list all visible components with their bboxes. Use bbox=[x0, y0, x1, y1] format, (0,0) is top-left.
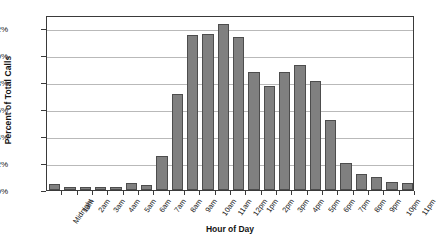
x-tick-label: 3pm bbox=[295, 197, 311, 214]
bar bbox=[126, 183, 137, 190]
x-tick-label: 9am bbox=[203, 197, 219, 214]
bar bbox=[310, 81, 321, 190]
bar bbox=[233, 37, 244, 190]
bar bbox=[386, 182, 397, 190]
x-tick-label: 8am bbox=[188, 197, 204, 214]
y-tick-mark bbox=[41, 56, 46, 57]
x-tick-mark bbox=[261, 191, 262, 195]
bar bbox=[294, 65, 305, 190]
x-tick-mark bbox=[245, 191, 246, 195]
x-tick-mark bbox=[138, 191, 139, 195]
x-tick-mark bbox=[199, 191, 200, 195]
x-tick-mark bbox=[215, 191, 216, 195]
bar bbox=[172, 94, 183, 190]
y-tick-label: 0% bbox=[0, 187, 8, 196]
x-tick-mark bbox=[307, 191, 308, 195]
bar bbox=[49, 184, 60, 190]
x-tick-label: 7am bbox=[173, 197, 189, 214]
bar bbox=[202, 34, 213, 190]
x-tick-mark bbox=[291, 191, 292, 195]
x-tick-label: 4am bbox=[127, 197, 143, 214]
x-tick-mark bbox=[230, 191, 231, 195]
x-tick-mark bbox=[383, 191, 384, 195]
x-tick-label: 9pm bbox=[387, 197, 403, 214]
bar bbox=[218, 24, 229, 190]
x-tick-mark bbox=[61, 191, 62, 195]
x-tick-label: 3am bbox=[111, 197, 127, 214]
x-tick-label: 10am bbox=[220, 197, 238, 218]
bar bbox=[156, 156, 167, 190]
x-tick-mark bbox=[184, 191, 185, 195]
x-tick-label: 1am bbox=[81, 197, 97, 214]
bar bbox=[340, 163, 351, 190]
y-tick-label: 4% bbox=[0, 133, 8, 142]
bar bbox=[264, 86, 275, 190]
x-tick-mark bbox=[92, 191, 93, 195]
bar bbox=[64, 187, 75, 190]
bars-group bbox=[47, 17, 413, 190]
bar bbox=[248, 72, 259, 190]
x-tick-mark bbox=[77, 191, 78, 195]
y-tick-label: 6% bbox=[0, 106, 8, 115]
bar bbox=[356, 174, 367, 190]
x-tick-label: 10pm bbox=[404, 197, 422, 218]
bar bbox=[371, 177, 382, 190]
x-tick-label: 5am bbox=[142, 197, 158, 214]
x-tick-label: 2pm bbox=[280, 197, 296, 214]
x-tick-mark bbox=[169, 191, 170, 195]
y-tick-mark bbox=[41, 137, 46, 138]
y-tick-mark bbox=[41, 110, 46, 111]
bar bbox=[110, 187, 121, 190]
x-tick-label: 6pm bbox=[341, 197, 357, 214]
x-tick-mark bbox=[414, 191, 415, 195]
x-tick-label: 4pm bbox=[311, 197, 327, 214]
x-tick-label: 6am bbox=[157, 197, 173, 214]
bar bbox=[187, 35, 198, 190]
x-tick-label: 7pm bbox=[357, 197, 373, 214]
x-tick-mark bbox=[337, 191, 338, 195]
bar bbox=[95, 187, 106, 190]
x-tick-mark bbox=[322, 191, 323, 195]
y-tick-mark bbox=[41, 83, 46, 84]
y-tick-label: 8% bbox=[0, 79, 8, 88]
bar bbox=[141, 185, 152, 190]
y-tick-mark bbox=[41, 191, 46, 192]
y-tick-mark bbox=[41, 164, 46, 165]
x-tick-mark bbox=[276, 191, 277, 195]
x-tick-mark bbox=[107, 191, 108, 195]
y-axis-title-label: Percent of Total Calls bbox=[3, 56, 13, 144]
x-tick-label: 5pm bbox=[326, 197, 342, 214]
y-tick-label: 2% bbox=[0, 160, 8, 169]
bar bbox=[80, 187, 91, 190]
y-tick-mark bbox=[41, 29, 46, 30]
x-tick-mark bbox=[123, 191, 124, 195]
x-tick-mark bbox=[153, 191, 154, 195]
bar bbox=[402, 183, 413, 190]
x-tick-mark bbox=[353, 191, 354, 195]
x-tick-mark bbox=[368, 191, 369, 195]
x-axis-title: Hour of Day bbox=[46, 224, 414, 234]
x-tick-mark bbox=[399, 191, 400, 195]
x-tick-label: 2am bbox=[96, 197, 112, 214]
y-tick-label: 12% bbox=[0, 25, 8, 34]
y-tick-label: 10% bbox=[0, 52, 8, 61]
bar bbox=[325, 120, 336, 190]
x-tick-label: 8pm bbox=[372, 197, 388, 214]
x-tick-label: 11am bbox=[235, 197, 253, 217]
bar bbox=[279, 72, 290, 190]
x-tick-label: 11pm bbox=[419, 197, 437, 217]
plot-area bbox=[46, 16, 414, 191]
x-tick-label: 1pm bbox=[265, 197, 281, 214]
